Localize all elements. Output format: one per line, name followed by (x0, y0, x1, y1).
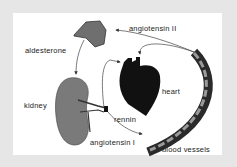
blood-vessel-icon (148, 52, 208, 152)
adrenal-gland-icon (74, 21, 106, 47)
label-aldesterone: aldesterone (25, 47, 66, 55)
label-angiotensin-i: angiotensin I (90, 139, 135, 147)
kidney-icon (56, 78, 108, 145)
heart-icon (120, 57, 161, 116)
label-heart: heart (162, 88, 180, 96)
label-angiotensin-ii: angiotensin II (129, 25, 176, 33)
label-kidney: kidney (24, 102, 47, 110)
label-rennin: rennin (114, 116, 136, 124)
label-blood-vessels: blood vessels (162, 146, 210, 154)
